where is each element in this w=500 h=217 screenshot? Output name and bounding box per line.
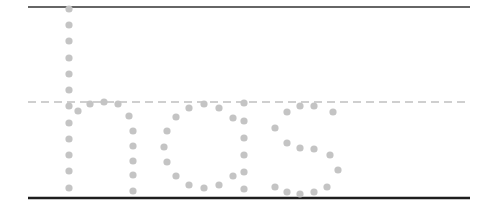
trace-dot <box>240 99 247 106</box>
trace-dot <box>215 104 222 111</box>
letter-h-right-leg <box>129 127 136 194</box>
handwriting-worksheet <box>0 0 500 217</box>
trace-dot <box>65 167 72 174</box>
trace-dot <box>271 183 278 190</box>
trace-dot <box>240 168 247 175</box>
trace-dot <box>172 113 179 120</box>
trace-dot <box>65 54 72 61</box>
trace-dot <box>129 157 136 164</box>
letter-s-curve <box>271 102 341 197</box>
trace-dot <box>65 5 72 12</box>
trace-dot <box>163 127 170 134</box>
trace-dot <box>65 119 72 126</box>
trace-dot <box>129 187 136 194</box>
trace-dot <box>86 100 93 107</box>
trace-dot <box>240 134 247 141</box>
trace-dot <box>185 181 192 188</box>
trace-dot <box>283 188 290 195</box>
trace-dot <box>283 139 290 146</box>
trace-dot <box>310 145 317 152</box>
trace-dot <box>114 100 121 107</box>
dotted-letters-hos <box>65 5 341 197</box>
trace-dot <box>65 86 72 93</box>
trace-dot <box>326 151 333 158</box>
trace-dot <box>229 172 236 179</box>
trace-dot <box>240 185 247 192</box>
letter-h-stem <box>65 5 72 191</box>
trace-dot <box>240 117 247 124</box>
trace-dot <box>296 102 303 109</box>
trace-dot <box>65 184 72 191</box>
trace-dot <box>65 102 72 109</box>
trace-dot <box>100 98 107 105</box>
trace-dot <box>129 171 136 178</box>
trace-dot <box>185 104 192 111</box>
trace-dot <box>296 190 303 197</box>
trace-dot <box>215 181 222 188</box>
trace-dot <box>125 112 132 119</box>
trace-dot <box>65 37 72 44</box>
trace-dot <box>163 158 170 165</box>
trace-dot <box>296 144 303 151</box>
trace-dot <box>271 124 278 131</box>
trace-dot <box>323 183 330 190</box>
trace-dot <box>74 107 81 114</box>
trace-dot <box>129 127 136 134</box>
trace-dot <box>129 142 136 149</box>
trace-dot <box>334 166 341 173</box>
letter-o-right-stroke <box>240 99 247 192</box>
trace-dot <box>310 102 317 109</box>
trace-dot <box>65 70 72 77</box>
trace-dot <box>200 100 207 107</box>
letter-o-bowl <box>160 100 236 191</box>
trace-dot <box>240 151 247 158</box>
trace-dot <box>200 184 207 191</box>
trace-dot <box>329 108 336 115</box>
trace-dot <box>310 188 317 195</box>
trace-dot <box>65 151 72 158</box>
trace-dot <box>65 21 72 28</box>
trace-dot <box>172 172 179 179</box>
trace-dot <box>65 135 72 142</box>
trace-dot <box>160 143 167 150</box>
trace-dot <box>283 108 290 115</box>
trace-dot <box>229 114 236 121</box>
